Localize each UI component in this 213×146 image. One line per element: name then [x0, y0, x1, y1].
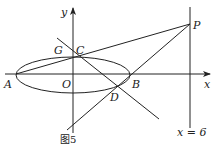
label-A: A — [3, 78, 12, 91]
label-G: G — [54, 44, 63, 57]
label-y: y — [60, 6, 68, 19]
label-C: C — [76, 44, 85, 57]
label-line-x6: x = 6 — [177, 126, 206, 139]
line-AP — [16, 24, 190, 74]
label-O: O — [62, 78, 71, 91]
label-D: D — [109, 91, 119, 104]
ellipse-diagram: y x O A B C G D P x = 6 图5 — [0, 0, 213, 146]
line-PD — [67, 24, 190, 130]
label-x: x — [204, 78, 211, 91]
line-GCD — [57, 38, 159, 119]
figure-caption: 图5 — [60, 134, 76, 145]
label-B: B — [131, 78, 140, 91]
label-P: P — [192, 19, 201, 32]
